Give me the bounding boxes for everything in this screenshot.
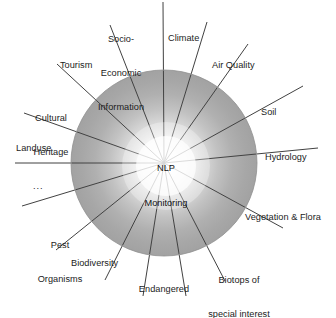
label-climate: Climate [168, 33, 216, 44]
label-cultural-heritage: Cultural Heritage [22, 90, 80, 181]
label-ellipsis: ... [33, 181, 44, 191]
label-cultural-line2: Heritage [22, 147, 80, 158]
label-biotops-special-interest: Biotops of special interest [198, 252, 280, 318]
center-label: NLP Monitoring [134, 140, 198, 233]
label-biotops-line2: special interest [198, 309, 280, 318]
label-pest-line1: Pest [28, 240, 92, 251]
label-pest-organisms: Pest Organisms [28, 217, 92, 308]
label-endangered-species: Endangered species [132, 261, 196, 318]
label-socio-line1: Socio- [90, 34, 152, 45]
label-air-quality: Air Quality [212, 60, 268, 71]
label-hydrology: Hydrology [265, 152, 323, 163]
center-label-line1: NLP [134, 163, 198, 175]
label-socio-economic-information: Socio- Economic Information [90, 11, 152, 136]
label-soil: Soil [261, 107, 291, 118]
label-vegetation-flora: Vegetation & Flora [245, 212, 336, 223]
radial-diagram: NLP Monitoring Socio- Economic Informati… [0, 0, 336, 318]
label-pest-line2: Organisms [28, 274, 92, 285]
label-tourism: Tourism [60, 60, 110, 71]
label-biotops-line1: Biotops of [198, 275, 280, 286]
label-cultural-line1: Cultural [22, 113, 80, 124]
label-endangered-line1: Endangered [132, 284, 196, 295]
center-label-line2: Monitoring [134, 198, 198, 210]
label-socio-line3: Information [90, 102, 152, 113]
